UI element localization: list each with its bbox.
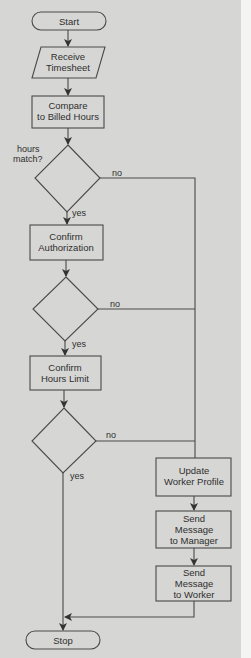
edge-worker-stop	[65, 601, 194, 617]
decision1-no-label: no	[112, 168, 122, 178]
flowchart: Start Receive Timesheet Compare to Bille…	[0, 0, 251, 658]
decision1-question-line2: match?	[13, 154, 43, 164]
receive-label-line2: Timesheet	[46, 62, 90, 73]
confirmauth-label-line2: Authorization	[38, 242, 93, 253]
start-label: Start	[59, 16, 79, 27]
manager-label-line3: to Manager	[170, 535, 218, 546]
send-message-manager-process: Send Message to Manager	[156, 511, 231, 548]
start-terminal: Start	[32, 12, 106, 30]
stop-terminal: Stop	[26, 631, 100, 649]
confirmlimit-label-line1: Confirm	[48, 362, 81, 373]
receive-label-line1: Receive	[51, 51, 85, 62]
flowchart-canvas: Start Receive Timesheet Compare to Bille…	[0, 0, 251, 658]
update-label-line1: Update	[179, 465, 210, 476]
update-label-line2: Worker Profile	[164, 476, 224, 487]
decision-hours-match: hours match? no yes	[13, 144, 122, 218]
worker-label-line2: Message	[175, 578, 214, 589]
compare-process: Compare to Billed Hours	[32, 96, 104, 128]
decision3-no-label: no	[106, 430, 116, 440]
decision-authorization: no yes	[33, 277, 120, 349]
confirm-authorization-process: Confirm Authorization	[30, 225, 103, 260]
compare-label-line2: to Billed Hours	[37, 111, 99, 122]
receive-timesheet-input: Receive Timesheet	[32, 47, 105, 78]
edge-decision1-no	[100, 178, 195, 458]
decision-hours-limit: no yes	[32, 408, 116, 481]
decision1-yes-label: yes	[72, 208, 87, 218]
confirmauth-label-line1: Confirm	[49, 231, 82, 242]
compare-label-line1: Compare	[48, 100, 87, 111]
decision3-yes-label: yes	[70, 471, 85, 481]
manager-label-line1: Send	[183, 513, 205, 524]
worker-label-line1: Send	[183, 567, 205, 578]
worker-label-line3: to Worker	[173, 589, 214, 600]
manager-label-line2: Message	[175, 524, 214, 535]
decision2-no-label: no	[110, 299, 120, 309]
decision2-yes-label: yes	[72, 339, 87, 349]
stop-label: Stop	[53, 635, 73, 646]
confirmlimit-label-line2: Hours Limit	[41, 373, 89, 384]
update-worker-profile-process: Update Worker Profile	[156, 458, 231, 496]
confirm-hours-limit-process: Confirm Hours Limit	[30, 356, 101, 390]
send-message-worker-process: Send Message to Worker	[156, 566, 231, 601]
decision1-question-line1: hours	[17, 144, 40, 154]
